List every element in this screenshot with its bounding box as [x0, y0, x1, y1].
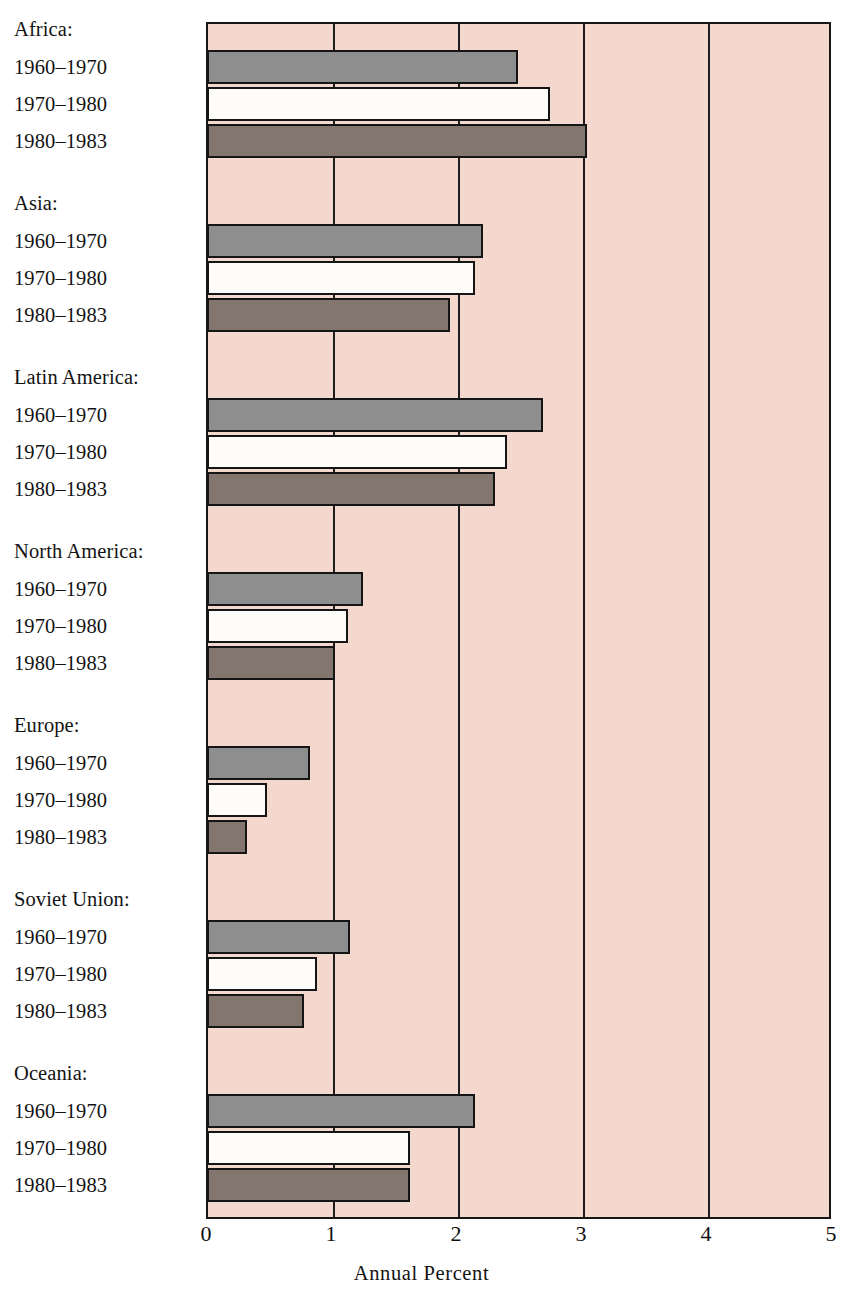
bar	[207, 50, 518, 84]
period-label: 1970–1980	[14, 964, 200, 985]
period-label: 1960–1970	[14, 579, 200, 600]
bar	[207, 572, 363, 606]
x-axis-title-text: Annual Percent	[354, 1262, 489, 1284]
group-label: Europe:	[14, 715, 200, 736]
period-label: 1970–1980	[14, 94, 200, 115]
period-label: 1980–1983	[14, 305, 200, 326]
period-label: 1960–1970	[14, 753, 200, 774]
bar	[207, 261, 475, 295]
period-label: 1980–1983	[14, 479, 200, 500]
bar	[207, 820, 247, 854]
x-tick-label: 0	[201, 1223, 212, 1245]
population-growth-bar-chart: Africa:1960–19701970–19801980–1983Asia:1…	[0, 0, 843, 1292]
period-label: 1960–1970	[14, 405, 200, 426]
bar	[207, 783, 267, 817]
bar	[207, 87, 550, 121]
bar	[207, 994, 304, 1028]
period-label: 1970–1980	[14, 442, 200, 463]
group-label: North America:	[14, 541, 200, 562]
x-tick-label: 4	[701, 1223, 712, 1245]
bar	[207, 1094, 475, 1128]
period-label: 1970–1980	[14, 790, 200, 811]
period-label: 1960–1970	[14, 57, 200, 78]
period-label: 1970–1980	[14, 1138, 200, 1159]
period-label: 1960–1970	[14, 1101, 200, 1122]
group-label: Latin America:	[14, 367, 200, 388]
bar	[207, 1168, 410, 1202]
group-label: Oceania:	[14, 1063, 200, 1084]
period-label: 1970–1980	[14, 616, 200, 637]
bar	[207, 398, 543, 432]
bar	[207, 298, 450, 332]
period-label: 1980–1983	[14, 827, 200, 848]
period-label: 1980–1983	[14, 1001, 200, 1022]
bar	[207, 224, 483, 258]
period-label: 1980–1983	[14, 653, 200, 674]
period-label: 1970–1980	[14, 268, 200, 289]
x-axis-tick-labels: 012345	[206, 1219, 831, 1259]
bar	[207, 1131, 410, 1165]
bar-series-container	[208, 24, 829, 1217]
x-tick-label: 1	[326, 1223, 337, 1245]
bar	[207, 920, 350, 954]
bar	[207, 746, 310, 780]
bar	[207, 609, 348, 643]
period-label: 1980–1983	[14, 131, 200, 152]
category-label-column: Africa:1960–19701970–19801980–1983Asia:1…	[0, 0, 200, 1200]
period-label: 1980–1983	[14, 1175, 200, 1196]
group-label: Asia:	[14, 193, 200, 214]
x-axis-title: Annual Percent	[0, 1262, 843, 1285]
group-label: Soviet Union:	[14, 889, 200, 910]
period-label: 1960–1970	[14, 927, 200, 948]
plot-area	[206, 22, 831, 1219]
bar	[207, 472, 495, 506]
bar	[207, 646, 335, 680]
x-tick-label: 3	[576, 1223, 587, 1245]
group-label: Africa:	[14, 19, 200, 40]
bar	[207, 957, 317, 991]
period-label: 1960–1970	[14, 231, 200, 252]
x-tick-label: 2	[451, 1223, 462, 1245]
bar	[207, 124, 587, 158]
bar	[207, 435, 507, 469]
x-tick-label: 5	[826, 1223, 837, 1245]
